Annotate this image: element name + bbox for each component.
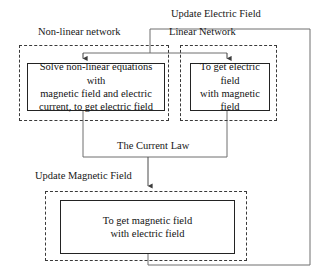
label-linear-network: Linear Network — [169, 26, 236, 38]
process-box-get-magnetic-field-text: To get magnetic field with electric fiel… — [99, 214, 196, 241]
process-box-get-electric-field: To get electric field with magnetic fiel… — [190, 63, 270, 111]
label-the-current-law: The Current Law — [117, 140, 189, 152]
label-non-linear-network: Non-linear network — [38, 26, 121, 38]
process-box-solve-non-linear-equations: Solve non-linear equations with magnetic… — [27, 63, 165, 111]
process-box-get-magnetic-field: To get magnetic field with electric fiel… — [60, 200, 235, 254]
label-update-electric-field: Update Electric Field — [171, 8, 261, 20]
process-box-solve-non-linear-equations-text: Solve non-linear equations with magnetic… — [28, 60, 164, 114]
process-box-get-electric-field-text: To get electric field with magnetic fiel… — [191, 60, 269, 114]
flowchart-diagram: Update Electric Field Non-linear network… — [0, 0, 326, 280]
label-update-magnetic-field: Update Magnetic Field — [35, 170, 132, 182]
